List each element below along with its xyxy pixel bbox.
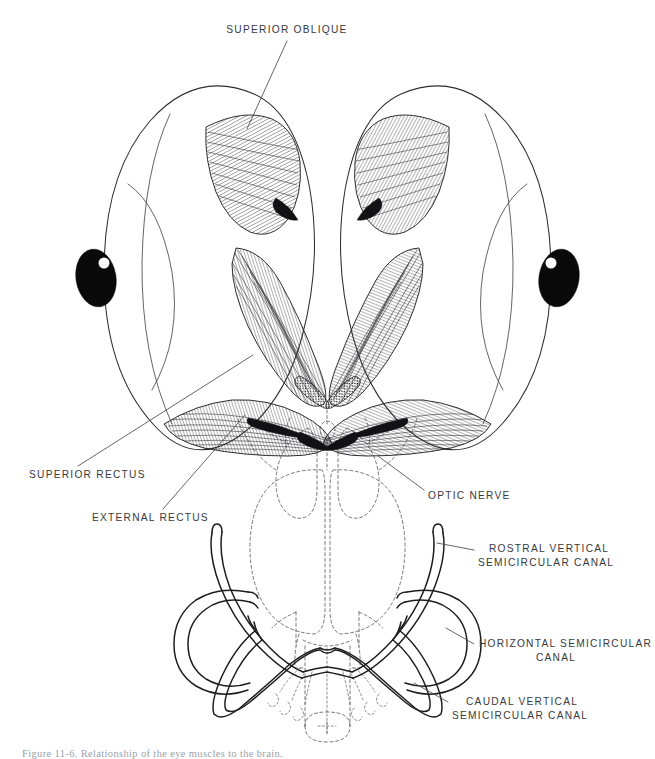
svg-text:HORIZONTAL SEMICIRCULAR: HORIZONTAL SEMICIRCULAR [479,638,652,649]
svg-text:SEMICIRCULAR CANAL: SEMICIRCULAR CANAL [452,710,588,721]
svg-text:CAUDAL VERTICAL: CAUDAL VERTICAL [466,696,578,707]
label-superior-oblique: SUPERIOR OBLIQUE [226,24,347,35]
svg-text:CANAL: CANAL [536,652,576,663]
label-external-rectus: EXTERNAL RECTUS [92,512,209,523]
figure-caption: Figure 11-6. Relationship of the eye mus… [22,748,283,759]
svg-text:ROSTRAL VERTICAL: ROSTRAL VERTICAL [489,543,609,554]
label-superior-rectus: SUPERIOR RECTUS [29,469,146,480]
label-optic-nerve: OPTIC NERVE [428,490,511,501]
diagram-canvas: SUPERIOR OBLIQUE SUPERIOR RECTUS EXTERNA… [0,0,655,759]
right-pupil-highlight [546,258,557,269]
anatomical-figure: SUPERIOR OBLIQUE SUPERIOR RECTUS EXTERNA… [0,0,655,759]
svg-text:SEMICIRCULAR CANAL: SEMICIRCULAR CANAL [478,557,614,568]
left-pupil-highlight [99,258,110,269]
